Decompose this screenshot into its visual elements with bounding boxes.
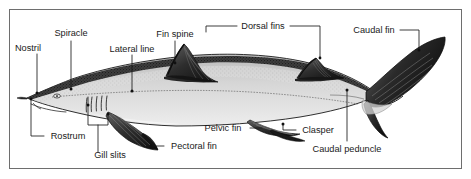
label-pectoral-fin: Pectoral fin	[171, 141, 217, 151]
label-caudal-peduncle: Caudal peduncle	[313, 144, 382, 154]
dot-rostrum	[30, 98, 33, 101]
rostrum-tip	[17, 97, 27, 99]
label-spiracle: Spiracle	[54, 28, 87, 38]
dot-caudal-peduncle	[346, 89, 349, 92]
dot-lateral-line	[131, 90, 134, 93]
label-rostrum: Rostrum	[51, 131, 86, 141]
leader-caudal-fin	[400, 30, 419, 50]
label-fin-spine: Fin spine	[156, 29, 193, 39]
label-pelvic-fin: Pelvic fin	[205, 123, 242, 133]
caudal-fin	[362, 37, 445, 138]
dot-gill-slit-lower	[107, 113, 110, 116]
eye	[54, 94, 61, 98]
leader-dorsal-left	[206, 26, 237, 32]
figure-root: Nostril Spiracle Lateral line Fin spine …	[0, 0, 471, 179]
dot-gill-slit-upper	[87, 104, 90, 107]
dot-clasper	[282, 123, 285, 126]
dot-nostril	[36, 92, 39, 95]
leader-clasper	[283, 124, 296, 130]
leader-dorsal-right	[290, 26, 320, 58]
label-dorsal-fins: Dorsal fins	[241, 21, 285, 31]
dot-caudal-fin	[418, 49, 421, 52]
shark-anatomy-diagram: Nostril Spiracle Lateral line Fin spine …	[0, 0, 471, 179]
dot-spiracle	[70, 88, 73, 91]
label-gill-slits: Gill slits	[94, 150, 126, 160]
label-lateral-line: Lateral line	[110, 44, 155, 54]
label-clasper: Clasper	[302, 125, 334, 135]
dot-fin-spine	[174, 62, 177, 65]
label-caudal-fin: Caudal fin	[353, 25, 394, 35]
dot-second-dorsal	[319, 57, 322, 60]
dot-pectoral-fin	[150, 145, 153, 148]
label-nostril: Nostril	[15, 43, 41, 53]
